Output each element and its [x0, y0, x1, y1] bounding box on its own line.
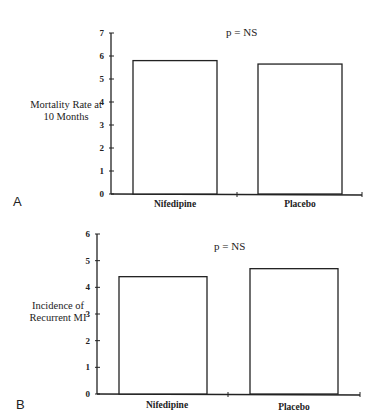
bar-nifedipine [119, 277, 207, 394]
p-value-annotation: p = NS [214, 240, 245, 252]
chart-panel-b: 0123456 p = NS Incidence of Recurrent MI… [0, 210, 374, 417]
bar-nifedipine [133, 61, 217, 194]
bar-placebo [258, 64, 342, 194]
x-category-nifedipine: Nifedipine [125, 400, 209, 410]
x-category-placebo: Placebo [258, 199, 342, 209]
y-tick-label: 4 [86, 282, 91, 292]
y-tick-label: 2 [86, 336, 91, 346]
chart-panel-a: 01234567 p = NS Mortality Rate at 10 Mon… [0, 0, 374, 210]
panel-letter-a: A [13, 194, 22, 209]
y-axis-label: Incidence of Recurrent MI [28, 300, 88, 324]
p-value-annotation: p = NS [226, 26, 257, 38]
y-axis-label-line1: Incidence of [28, 300, 88, 312]
y-tick-label: 1 [86, 362, 91, 372]
x-category-nifedipine: Nifedipine [133, 199, 217, 209]
y-tick-label: 6 [86, 229, 91, 239]
y-tick-label: 5 [86, 256, 91, 266]
y-axis-label: Mortality Rate at 10 Months [30, 99, 102, 123]
y-axis-label-line2: Recurrent MI [28, 312, 88, 324]
y-axis-label-line1: Mortality Rate at [30, 99, 102, 111]
x-category-placebo: Placebo [252, 402, 336, 412]
y-tick-label: 0 [86, 389, 91, 399]
y-axis-label-line2: 10 Months [30, 111, 102, 123]
bar-placebo [250, 269, 338, 394]
y-tick-label: 0 [100, 189, 105, 199]
y-tick-label: 5 [100, 74, 105, 84]
panel-letter-b: B [16, 397, 25, 412]
y-tick-label: 7 [100, 28, 105, 38]
y-tick-label: 6 [100, 51, 105, 61]
y-tick-label: 1 [100, 166, 105, 176]
y-tick-label: 2 [100, 143, 105, 153]
